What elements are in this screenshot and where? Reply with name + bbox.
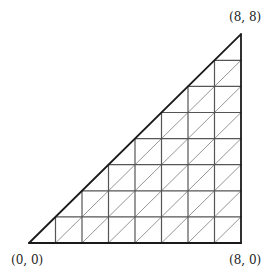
cell-diagonal [135, 139, 162, 165]
cell-diagonal [215, 113, 242, 139]
cell-diagonal [215, 139, 242, 165]
cell-diagonal [82, 191, 109, 217]
cell-diagonal [188, 113, 215, 139]
cell-diagonal [188, 217, 215, 243]
cell-diagonal [188, 139, 215, 165]
cell-diagonal [215, 60, 242, 86]
cell-diagonal [109, 165, 136, 191]
cell-diagonal [215, 217, 242, 243]
cell-diagonal [109, 191, 136, 217]
cell-diagonal [215, 191, 242, 217]
cell-diagonals [56, 60, 242, 243]
cell-diagonal [162, 165, 189, 191]
cell-diagonal [162, 113, 189, 139]
cell-diagonal [188, 165, 215, 191]
label-top-right: (8, 8) [229, 10, 261, 24]
cell-diagonal [82, 217, 109, 243]
cell-diagonal [215, 86, 242, 112]
cell-diagonal [188, 86, 215, 112]
cell-diagonal [162, 217, 189, 243]
cell-diagonal [56, 217, 83, 243]
cell-diagonal [162, 191, 189, 217]
label-bottom-right: (8, 0) [229, 253, 261, 267]
cell-diagonal [109, 217, 136, 243]
cell-diagonal [135, 191, 162, 217]
cell-diagonal [215, 165, 242, 191]
cell-diagonal [135, 165, 162, 191]
cell-diagonal [162, 139, 189, 165]
cell-diagonal [135, 217, 162, 243]
label-origin: (0, 0) [11, 253, 43, 267]
cell-diagonal [188, 191, 215, 217]
triangle-grid-diagram: (0, 0) (8, 0) (8, 8) [0, 0, 279, 279]
